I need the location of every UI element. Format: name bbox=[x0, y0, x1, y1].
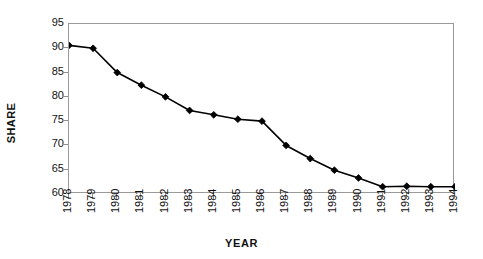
x-tick-label: 1979 bbox=[86, 201, 98, 235]
x-tick-label: 1987 bbox=[279, 201, 291, 235]
x-tick-label-text: 1982 bbox=[159, 179, 170, 213]
x-axis-tick-labels: 1978197919801981198219831984198519861987… bbox=[0, 0, 483, 259]
x-tick-label-text: 1993 bbox=[424, 179, 435, 213]
x-tick-label-text: 1985 bbox=[231, 179, 242, 213]
x-tick-label-text: 1989 bbox=[327, 179, 338, 213]
x-tick-label: 1986 bbox=[255, 201, 267, 235]
x-tick-label-text: 1986 bbox=[255, 179, 266, 213]
x-tick-label-text: 1984 bbox=[207, 179, 218, 213]
x-tick-label-text: 1983 bbox=[183, 179, 194, 213]
x-tick-label-text: 1990 bbox=[352, 179, 363, 213]
x-tick-label: 1980 bbox=[110, 201, 122, 235]
x-tick-label: 1985 bbox=[231, 201, 243, 235]
x-tick-label: 1992 bbox=[400, 201, 412, 235]
x-tick-label-text: 1978 bbox=[62, 179, 73, 213]
x-tick-label-text: 1981 bbox=[134, 179, 145, 213]
x-axis-title: YEAR bbox=[0, 237, 483, 249]
x-tick-label: 1978 bbox=[62, 201, 74, 235]
line-chart: SHARE 9590858075706560 19781979198019811… bbox=[0, 0, 483, 259]
x-tick-label-text: 1988 bbox=[303, 179, 314, 213]
x-tick-label: 1994 bbox=[448, 201, 460, 235]
x-tick-label-text: 1991 bbox=[376, 179, 387, 213]
x-tick-label: 1982 bbox=[159, 201, 171, 235]
x-tick-label: 1993 bbox=[424, 201, 436, 235]
x-tick-label: 1989 bbox=[327, 201, 339, 235]
x-tick-label-text: 1994 bbox=[448, 179, 459, 213]
x-tick-label: 1991 bbox=[376, 201, 388, 235]
x-tick-label-text: 1987 bbox=[279, 179, 290, 213]
x-tick-label: 1983 bbox=[183, 201, 195, 235]
x-axis-title-label: YEAR bbox=[225, 237, 258, 249]
x-tick-label-text: 1992 bbox=[400, 179, 411, 213]
x-tick-label-text: 1979 bbox=[86, 179, 97, 213]
x-tick-label-text: 1980 bbox=[110, 179, 121, 213]
x-tick-label: 1988 bbox=[303, 201, 315, 235]
x-tick-label: 1984 bbox=[207, 201, 219, 235]
x-tick-label: 1981 bbox=[134, 201, 146, 235]
x-tick-label: 1990 bbox=[352, 201, 364, 235]
